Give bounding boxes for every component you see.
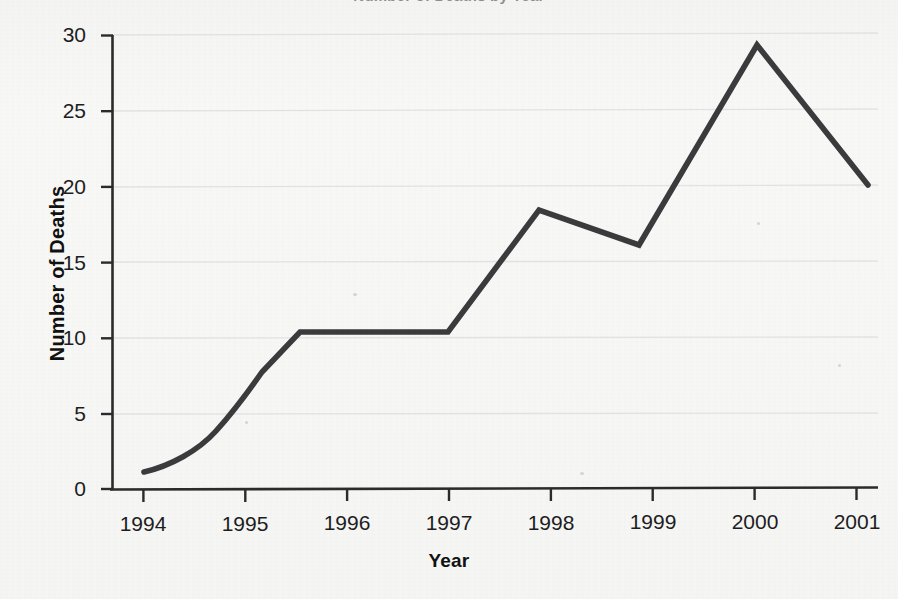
y-axis-title: Number of Deaths [46,144,69,404]
y-tick-label-0: 0 [30,477,86,501]
scan-speck [757,222,760,225]
x-tick-label-2000: 2000 [732,510,779,534]
x-axis-spine [110,488,878,490]
y-tick-label-5: 5 [30,402,86,426]
scan-speck [353,293,357,296]
x-tick-label-1999: 1999 [630,510,677,534]
x-tick-label-1995: 1995 [222,512,269,536]
x-tick-label-2001: 2001 [834,510,881,534]
x-tick-label-1997: 1997 [426,511,473,535]
y-tick-label-25: 25 [30,99,86,123]
x-axis-title: Year [0,550,898,572]
scan-speck [580,472,584,475]
scan-speck [838,364,841,367]
gridlines [112,33,878,414]
y-tick-label-30: 30 [30,23,86,47]
x-tick-label-1994: 1994 [120,512,167,536]
scan-speck [245,421,248,424]
chart-figure: Number of Deaths by Year [0,0,898,599]
x-tick-label-1998: 1998 [528,511,575,535]
x-tick-label-1996: 1996 [324,511,371,535]
